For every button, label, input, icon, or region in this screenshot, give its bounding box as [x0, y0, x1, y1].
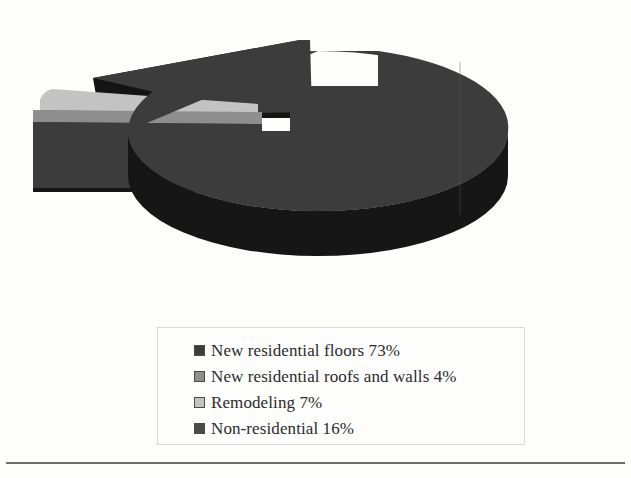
legend-label-non-residential: Non-residential 16%	[211, 420, 354, 437]
pie-chart	[0, 0, 631, 300]
legend-label-remodeling: Remodeling 7%	[211, 394, 322, 411]
chart-page: New residential floors 73% New residenti…	[0, 0, 631, 478]
legend-label-new-residential-floors: New residential floors 73%	[211, 342, 400, 359]
legend-item: New residential floors 73%	[194, 337, 524, 363]
legend-label-new-residential-roofs-and-walls: New residential roofs and walls 4%	[211, 368, 457, 385]
bottom-divider	[6, 462, 625, 464]
legend-item: Remodeling 7%	[194, 389, 524, 415]
legend-swatch-new-residential-roofs-and-walls	[194, 371, 205, 382]
legend-item: New residential roofs and walls 4%	[194, 363, 524, 389]
legend-swatch-new-residential-floors	[194, 345, 205, 356]
pie-slice-new-residential-floors	[128, 51, 508, 256]
legend-swatch-remodeling	[194, 397, 205, 408]
legend-item: Non-residential 16%	[194, 415, 524, 441]
pie-chart-svg	[0, 0, 631, 300]
legend-swatch-non-residential	[194, 423, 205, 434]
chart-legend: New residential floors 73% New residenti…	[157, 327, 525, 445]
